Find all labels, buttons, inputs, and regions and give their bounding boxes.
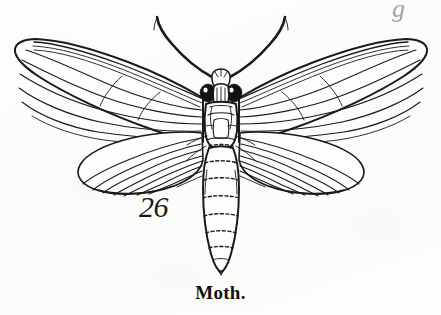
thorax <box>205 102 238 149</box>
abdomen <box>203 147 239 276</box>
left-eye-highlight <box>203 87 207 92</box>
antennae <box>154 17 288 77</box>
right-antenna <box>230 17 285 77</box>
figure-page: .ink { fill: none; stroke: #1a1a1a; stro… <box>0 0 441 315</box>
left-forewing <box>15 39 203 144</box>
corner-mark: g <box>392 0 405 24</box>
left-hindwing <box>78 132 203 196</box>
right-forewing <box>239 39 427 144</box>
figure-number: 26 <box>139 192 168 222</box>
figure-caption: Moth. <box>0 282 441 304</box>
moth-illustration: .ink { fill: none; stroke: #1a1a1a; stro… <box>0 0 441 315</box>
left-antenna <box>157 17 212 77</box>
right-eye-highlight <box>229 87 233 92</box>
right-hindwing <box>239 132 364 196</box>
